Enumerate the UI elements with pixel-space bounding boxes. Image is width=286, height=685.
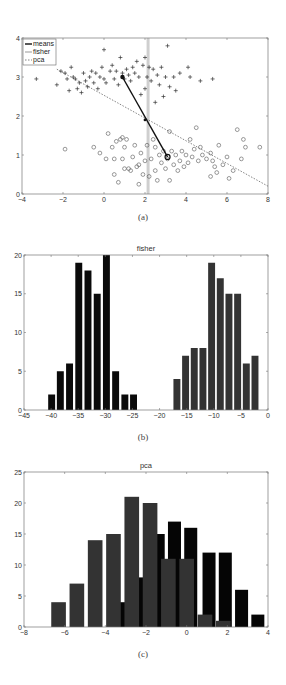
y-tick-label: 3	[16, 74, 20, 81]
bar	[70, 584, 85, 627]
bar	[235, 590, 248, 627]
y-tick-label: 4	[16, 35, 20, 42]
y-tick-label: 10	[14, 562, 22, 569]
mean-point	[120, 75, 124, 79]
bar	[191, 348, 198, 410]
x-tick-label: −15	[181, 412, 193, 419]
bar	[88, 540, 103, 627]
bar	[106, 534, 121, 627]
chart-panel-b: fisher−45−40−35−30−25−20−15−10−500510152…	[14, 244, 270, 442]
x-tick-label: −25	[127, 412, 139, 419]
legend-label-fisher: fisher	[33, 48, 51, 55]
x-tick-label: −5	[237, 412, 245, 419]
bar	[85, 271, 92, 411]
bar	[182, 356, 189, 410]
y-tick-label: 5	[18, 593, 22, 600]
bar	[208, 263, 215, 410]
y-tick-label: 15	[14, 531, 22, 538]
bar	[173, 379, 180, 410]
x-tick-label: −10	[208, 412, 220, 419]
series-class1	[48, 255, 137, 410]
midpoint	[144, 119, 147, 122]
x-tick-label: 6	[225, 196, 229, 203]
bar	[161, 559, 176, 627]
x-tick-label: −20	[154, 412, 166, 419]
x-tick-label: −2	[59, 196, 67, 203]
y-tick-label: 0	[18, 407, 22, 414]
plot-area	[51, 497, 264, 627]
bar	[251, 615, 264, 627]
y-tick-label: 10	[14, 329, 22, 336]
bar	[225, 294, 232, 410]
bar	[112, 371, 119, 410]
bar	[219, 553, 232, 627]
bar	[130, 395, 137, 411]
chart-panel-c: pca−8−6−4−20240510152025(c)	[14, 461, 270, 659]
x-tick-label: 0	[185, 629, 189, 636]
x-tick-label: −4	[101, 629, 109, 636]
x-tick-label: −6	[61, 629, 69, 636]
bar	[252, 356, 259, 410]
legend-label-means: means	[33, 40, 55, 47]
bar	[75, 263, 82, 410]
bar	[51, 602, 66, 627]
bar	[179, 559, 194, 627]
plot-area	[34, 38, 268, 194]
bar	[121, 395, 128, 411]
bar	[234, 294, 241, 410]
y-tick-label: 20	[14, 252, 22, 259]
x-tick-label: 4	[184, 196, 188, 203]
chart-title: pca	[140, 461, 153, 470]
bar	[57, 371, 64, 410]
legend: meansfisherpca	[23, 39, 56, 65]
bar	[143, 503, 158, 627]
legend-label-pca: pca	[33, 56, 44, 64]
x-tick-label: −30	[99, 412, 111, 419]
bar	[198, 615, 213, 627]
figure-caption: (b)	[138, 432, 149, 442]
x-tick-label: 0	[102, 196, 106, 203]
figure: meansfisherpca−4−20246801234(a)fisher−45…	[0, 0, 286, 685]
x-tick-label: 8	[266, 196, 270, 203]
y-tick-label: 5	[18, 368, 22, 375]
y-tick-label: 0	[16, 191, 20, 198]
bar	[124, 497, 139, 627]
bar	[216, 621, 231, 627]
bar	[217, 278, 224, 410]
x-tick-label: 2	[143, 196, 147, 203]
chart-panel-a: meansfisherpca−4−20246801234(a)	[16, 35, 270, 223]
figure-caption: (c)	[138, 649, 148, 659]
y-tick-label: 2	[16, 113, 20, 120]
x-tick-label: −35	[72, 412, 84, 419]
bar	[243, 364, 250, 411]
y-tick-label: 0	[18, 624, 22, 631]
x-tick-label: 0	[266, 412, 270, 419]
x-tick-label: −2	[142, 629, 150, 636]
y-tick-label: 20	[14, 500, 22, 507]
y-tick-label: 25	[14, 469, 22, 476]
y-tick-label: 1	[16, 152, 20, 159]
y-tick-label: 15	[14, 290, 22, 297]
bar	[94, 294, 101, 410]
bar	[66, 364, 73, 411]
figure-caption: (a)	[138, 212, 148, 222]
chart-title: fisher	[137, 244, 156, 253]
bar	[103, 255, 110, 410]
x-tick-label: −40	[45, 412, 57, 419]
series-plus	[34, 44, 214, 105]
series-class2	[173, 263, 258, 410]
plot-area	[48, 255, 258, 410]
bar	[199, 348, 206, 410]
x-tick-label: 4	[266, 629, 270, 636]
series-circle	[63, 126, 262, 186]
bar	[48, 395, 55, 411]
x-tick-label: 2	[225, 629, 229, 636]
